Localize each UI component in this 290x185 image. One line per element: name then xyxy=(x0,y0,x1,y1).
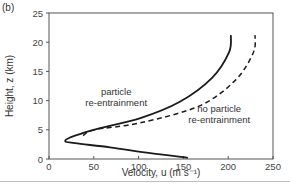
velocity-height-chart: 0501001502002500510152025 particlere-ent… xyxy=(0,0,290,185)
annotation-no-particle-reentrainment: no particlere-entrainment xyxy=(188,103,250,125)
divider-rule xyxy=(0,181,290,182)
y-tick-label: 25 xyxy=(32,8,43,19)
annotation-particle-reentrainment: particlere-entrainment xyxy=(85,86,147,108)
y-axis-title: Height, z (km) xyxy=(4,55,15,117)
x-axis-title: Velocity, u (m s⁻¹) xyxy=(122,167,201,178)
x-tick-label: 250 xyxy=(265,161,281,172)
plot-frame xyxy=(49,13,273,159)
annotations: particlere-entrainmentno particlere-entr… xyxy=(85,86,250,126)
y-tick-label: 5 xyxy=(38,124,43,135)
y-tick-label: 15 xyxy=(32,66,43,77)
y-tick-label: 20 xyxy=(32,37,43,48)
x-tick-label: 50 xyxy=(89,161,100,172)
plot-border xyxy=(49,13,273,159)
y-tick-label: 10 xyxy=(32,95,43,106)
x-tick-label: 0 xyxy=(46,161,51,172)
axis-ticks: 0501001502002500510152025 xyxy=(32,8,281,173)
x-tick-label: 200 xyxy=(220,161,236,172)
y-tick-label: 0 xyxy=(38,154,43,165)
